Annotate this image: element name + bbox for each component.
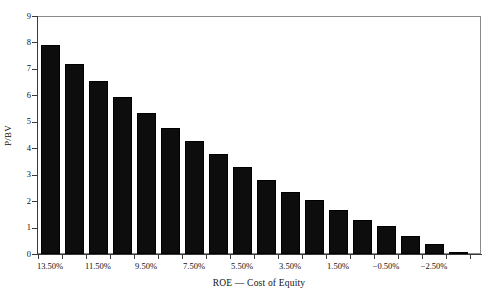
bar <box>233 167 251 254</box>
x-axis-line <box>37 254 482 255</box>
x-tick-label: −2.50% <box>421 261 448 271</box>
x-tick-label: 9.50% <box>135 261 157 271</box>
bar <box>305 200 323 254</box>
bar-slot <box>233 16 251 254</box>
x-tick-label: 13.50% <box>37 261 63 271</box>
y-tick <box>32 228 38 229</box>
bar-slot <box>305 16 323 254</box>
bar <box>113 97 131 254</box>
y-tick-label: 7 <box>5 64 31 73</box>
y-tick-label: 0 <box>5 250 31 259</box>
x-tick-label: −0.50% <box>373 261 400 271</box>
bar-slot <box>209 16 227 254</box>
x-tick-label: 7.50% <box>183 261 205 271</box>
bar-slot <box>281 16 299 254</box>
x-tick <box>326 254 327 259</box>
bar <box>257 180 275 254</box>
bar <box>449 252 467 254</box>
bar-slot <box>425 16 443 254</box>
bar <box>353 220 371 254</box>
x-tick-label: 1.50% <box>327 261 349 271</box>
y-tick-label: 6 <box>5 91 31 100</box>
y-tick <box>32 42 38 43</box>
x-tick <box>374 254 375 259</box>
y-tick-label: 1 <box>5 223 31 232</box>
y-tick <box>32 69 38 70</box>
y-tick <box>32 16 38 17</box>
bar-slot <box>329 16 347 254</box>
bar-slot <box>161 16 179 254</box>
bar <box>41 45 59 254</box>
y-tick-label: 4 <box>5 144 31 153</box>
x-tick <box>254 254 255 259</box>
y-tick-label: 9 <box>5 12 31 21</box>
bar <box>161 128 179 254</box>
chart-figure: P/BV 0123456789 ROE — Cost of Equity 13.… <box>0 0 499 300</box>
bar <box>425 244 443 254</box>
y-tick <box>32 95 38 96</box>
bar <box>89 81 107 254</box>
bar <box>377 226 395 254</box>
x-tick <box>62 254 63 259</box>
x-tick <box>182 254 183 259</box>
y-tick-label: 5 <box>5 117 31 126</box>
y-tick <box>32 122 38 123</box>
bar-slot <box>377 16 395 254</box>
x-tick <box>350 254 351 259</box>
y-axis-labels: 0123456789 <box>0 0 31 300</box>
x-tick <box>230 254 231 259</box>
bar <box>137 113 155 254</box>
x-tick <box>206 254 207 259</box>
bar <box>209 154 227 254</box>
bar <box>401 236 419 255</box>
x-tick-label: 5.50% <box>231 261 253 271</box>
bar-slot <box>401 16 419 254</box>
bar-slot <box>137 16 155 254</box>
bar-slot <box>185 16 203 254</box>
bar-slot <box>257 16 275 254</box>
x-tick-label: 3.50% <box>279 261 301 271</box>
bar-slot <box>89 16 107 254</box>
x-tick <box>86 254 87 259</box>
x-tick <box>110 254 111 259</box>
bar-slot <box>113 16 131 254</box>
bar <box>329 210 347 254</box>
x-tick <box>38 254 39 259</box>
bar-slot <box>65 16 83 254</box>
y-tick-label: 8 <box>5 38 31 47</box>
x-tick <box>134 254 135 259</box>
bar-slot <box>353 16 371 254</box>
x-tick <box>470 254 471 259</box>
x-tick <box>398 254 399 259</box>
bar <box>281 192 299 254</box>
bar-slot <box>41 16 59 254</box>
y-tick-label: 2 <box>5 197 31 206</box>
x-tick <box>446 254 447 259</box>
x-tick <box>302 254 303 259</box>
x-axis-title: ROE — Cost of Equity <box>37 278 481 289</box>
y-tick <box>32 201 38 202</box>
bar <box>65 64 83 254</box>
y-tick <box>32 175 38 176</box>
bar-series <box>38 16 481 254</box>
y-tick <box>32 148 38 149</box>
bar-slot <box>449 16 467 254</box>
x-tick-label: 11.50% <box>85 261 111 271</box>
y-tick-label: 3 <box>5 170 31 179</box>
bar <box>185 141 203 254</box>
x-tick <box>278 254 279 259</box>
x-tick <box>158 254 159 259</box>
x-tick <box>422 254 423 259</box>
